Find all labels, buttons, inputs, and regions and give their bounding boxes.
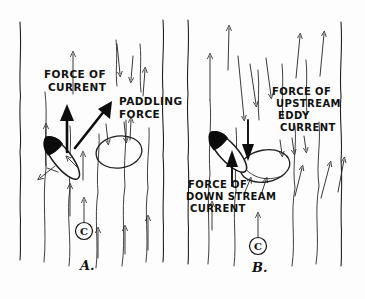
c-symbol-b: C	[254, 241, 262, 252]
force-of-current-label-a: FORCE OF CURRENT	[44, 68, 110, 93]
diagram-canvas: FORCE OF CURRENT PADDLING FORCE C A.	[0, 0, 365, 299]
panel-caption-a: A.	[78, 258, 95, 273]
c-symbol-a: C	[80, 226, 88, 237]
panel-caption-b: B.	[251, 260, 268, 275]
kayak-eddy-diagram: FORCE OF CURRENT PADDLING FORCE C A.	[0, 0, 365, 299]
